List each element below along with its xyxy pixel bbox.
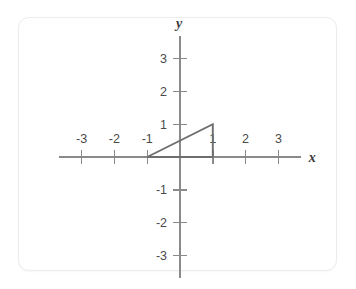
coordinate-plane: -3-2-1123321-1-2-3 xy xyxy=(0,0,356,289)
y-tick-label: -1 xyxy=(156,183,167,197)
x-tick-label: 2 xyxy=(242,132,249,146)
x-tick-label: 3 xyxy=(275,132,282,146)
y-tick-label: 1 xyxy=(160,118,167,132)
x-tick-label: -1 xyxy=(142,132,153,146)
y-tick-label: 3 xyxy=(160,52,167,66)
y-tick-label: -2 xyxy=(156,216,167,230)
figure-root: -3-2-1123321-1-2-3 xy xyxy=(0,0,356,289)
x-axis-label: x xyxy=(308,150,316,165)
x-tick-label: -2 xyxy=(109,132,120,146)
y-tick-label: -3 xyxy=(156,249,167,263)
x-tick-label: -3 xyxy=(76,132,87,146)
y-tick-label: 2 xyxy=(160,85,167,99)
y-axis-label: y xyxy=(174,16,183,31)
